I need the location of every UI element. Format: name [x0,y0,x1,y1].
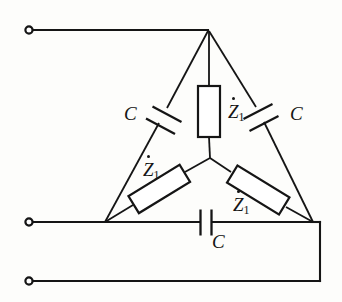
star-left-lead-inner [185,158,210,172]
impedance-right-subscript: 1 [244,203,250,217]
terminal-top-circle[interactable] [25,26,32,33]
capacitor-left-plate-a [153,107,182,123]
circuit-schematic-canvas [0,0,342,302]
capacitor-left-plate-b [146,119,175,135]
circuit-diagram: C C C Z1 Z1 Z1 [0,0,342,302]
impedance-left-symbol: Z [143,159,154,180]
impedance-left-dot-accent [147,155,150,158]
impedance-right-dot-accent [237,190,240,193]
capacitor-bottom-label: C [212,232,225,251]
impedance-top-symbol: Z [228,101,239,122]
impedance-right-symbol: Z [233,194,244,215]
impedance-top-subscript: 1 [239,110,245,124]
impedance-top-body [198,86,220,137]
capacitor-right-plate-a [244,104,273,119]
capacitor-right-label: C [290,104,303,123]
impedance-top-label: Z1 [228,102,245,121]
impedance-top-dot-accent [232,97,235,100]
terminal-middle-circle[interactable] [25,218,32,225]
impedance-left-label: Z1 [143,160,160,179]
star-right-lead-inner [210,158,231,172]
terminal-bottom-circle[interactable] [25,277,32,284]
impedance-left-subscript: 1 [154,168,160,182]
star-top-lead-lower [209,137,210,158]
capacitor-right-plate-b [250,116,279,131]
impedance-right-label: Z1 [233,195,250,214]
capacitor-left-label: C [124,104,137,123]
